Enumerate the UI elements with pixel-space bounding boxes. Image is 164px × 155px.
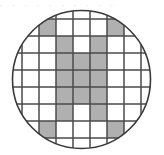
grid-cell-r3-c7[interactable] [124,53,141,70]
grid-cell-r6-c3[interactable] [56,104,73,121]
grid-cell-r4-c2[interactable] [39,70,56,87]
grid-cell-r2-c5[interactable] [90,36,107,53]
grid-cell-r7-c5[interactable] [90,121,107,138]
grid-cell-r2-c6[interactable] [107,36,124,53]
grid-cell-r2-c3[interactable] [56,36,73,53]
grid-cell-r5-c6[interactable] [107,87,124,104]
grid-cell-r5-c1[interactable] [22,87,39,104]
grid-cell-r6-c4[interactable] [73,104,90,121]
grid-cell-r1-c2[interactable] [39,19,56,36]
grid-cell-r5-c3[interactable] [56,87,73,104]
grid-cell-r3-c1[interactable] [22,53,39,70]
grid-cell-r4-c5[interactable] [90,70,107,87]
grid-cell-r7-c7[interactable] [124,121,141,138]
grid-cell-r3-c2[interactable] [39,53,56,70]
grid-cell-r1-c4[interactable] [73,19,90,36]
grid-cell-r3-c5[interactable] [90,53,107,70]
grid-cell-r4-c7[interactable] [124,70,141,87]
grid-cell-r4-c3[interactable] [56,70,73,87]
grid-cell-r6-c6[interactable] [107,104,124,121]
grid-cell-r6-c2[interactable] [39,104,56,121]
grid-cell-r5-c4[interactable] [73,87,90,104]
wafer-grid-figure: - - - - - - - - - - [0,0,164,155]
grid-cell-r3-c4[interactable] [73,53,90,70]
grid-cell-r4-c4[interactable] [73,70,90,87]
grid-cell-r2-c1[interactable] [22,36,39,53]
grid-cell-r1-c6[interactable] [107,19,124,36]
grid-cell-r2-c7[interactable] [124,36,141,53]
grid-cell-r7-c4[interactable] [73,121,90,138]
grid-cell-r7-c3[interactable] [56,121,73,138]
grid-cell-r3-c6[interactable] [107,53,124,70]
grid-cell-r5-c7[interactable] [124,87,141,104]
grid-cell-r7-c1[interactable] [22,121,39,138]
grid-cell-r1-c5[interactable] [90,19,107,36]
wafer-diagram [0,0,164,155]
grid-cell-r2-c2[interactable] [39,36,56,53]
grid-cell-r4-c1[interactable] [22,70,39,87]
grid-cell-r1-c3[interactable] [56,19,73,36]
grid-cell-r5-c2[interactable] [39,87,56,104]
grid-cell-r2-c4[interactable] [73,36,90,53]
grid-cell-r6-c5[interactable] [90,104,107,121]
grid-cell-r5-c5[interactable] [90,87,107,104]
grid-cell-r3-c3[interactable] [56,53,73,70]
grid-cell-r4-c6[interactable] [107,70,124,87]
